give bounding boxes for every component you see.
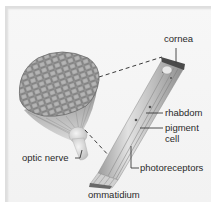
label-ommatidium: ommatidium	[88, 190, 140, 200]
figure-frame: cornea rhabdom pigment cell photorecepto…	[0, 0, 216, 215]
label-pigment-cell-line1: pigment	[165, 123, 199, 133]
zoom-connector-bottom	[85, 130, 111, 158]
label-cornea: cornea	[164, 34, 193, 44]
label-rhabdom: rhabdom	[165, 108, 203, 118]
zoom-connector-top	[99, 57, 162, 77]
compound-eye	[19, 52, 99, 160]
label-optic-nerve: optic nerve	[22, 153, 68, 163]
label-photoreceptors: photoreceptors	[140, 163, 203, 173]
label-pigment-cell-line2: cell	[165, 134, 179, 144]
